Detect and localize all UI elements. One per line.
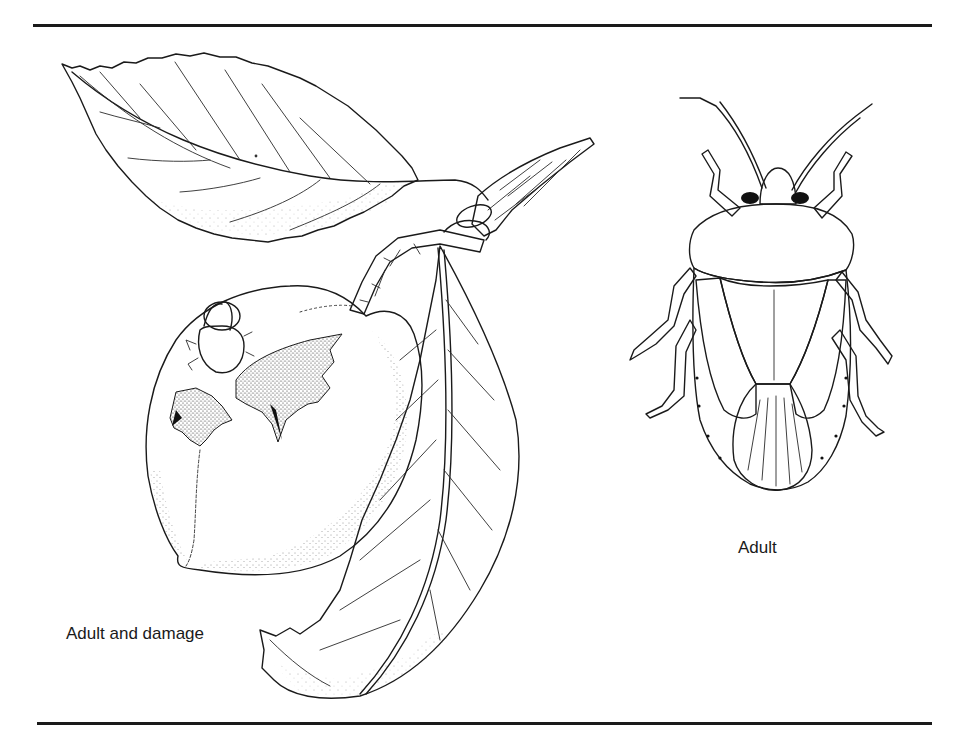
peach-fruit (146, 286, 422, 575)
adult-bug-illustration (630, 98, 892, 490)
twig (350, 138, 594, 314)
bottom-rule (37, 722, 932, 725)
caption-adult-and-damage: Adult and damage (66, 624, 204, 644)
caption-adult: Adult (738, 538, 777, 558)
upper-leaf (62, 53, 488, 242)
fruit-branch-illustration (62, 53, 594, 698)
bug-on-fruit (186, 302, 254, 373)
